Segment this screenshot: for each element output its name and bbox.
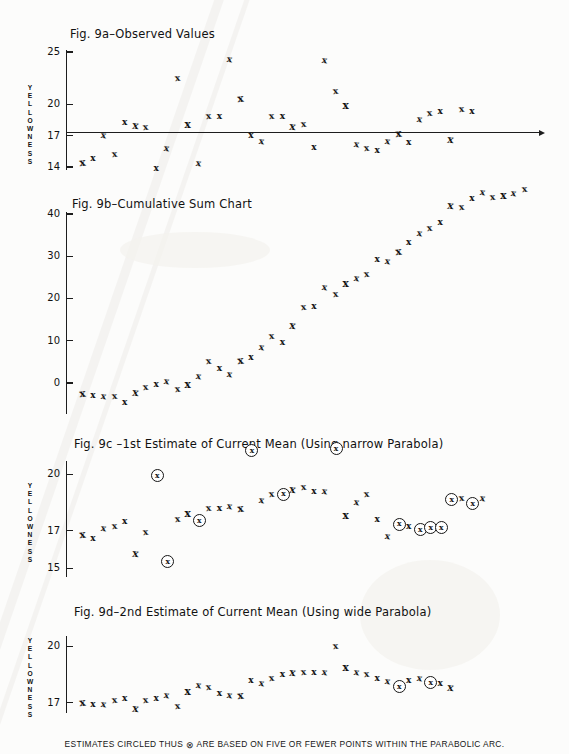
data-point: x (173, 385, 181, 395)
y-axis-tick-label: 30 (24, 250, 60, 261)
data-point: x (299, 119, 307, 129)
y-axis-tick (66, 568, 73, 569)
data-point: x (426, 223, 434, 233)
data-point: x (90, 154, 97, 163)
data-point: x (163, 690, 171, 700)
data-point: x (299, 668, 307, 678)
data-point: x (342, 101, 349, 110)
data-point: x (78, 158, 86, 168)
data-point: x (121, 517, 128, 526)
data-point: x (520, 185, 528, 195)
data-point-circled: x (161, 555, 174, 568)
data-point: x (90, 391, 97, 400)
data-point: x (405, 138, 412, 147)
data-point: x (289, 320, 297, 330)
data-point: x (110, 150, 118, 160)
y-axis-tick-label: 15 (24, 562, 60, 573)
data-point: x (331, 642, 339, 652)
data-point: x (289, 484, 297, 494)
data-point: x (374, 146, 381, 155)
data-point: x (352, 273, 360, 283)
data-point: x (184, 380, 191, 389)
y-axis-tick-label: 14 (24, 161, 60, 172)
data-point: x (447, 201, 455, 211)
data-point: x (236, 355, 244, 365)
y-axis-label-char: L (25, 109, 35, 117)
data-point: x (394, 247, 402, 257)
data-point: x (405, 238, 412, 247)
data-point: x (500, 191, 507, 200)
data-point: x (257, 137, 265, 147)
data-point: x (489, 193, 497, 203)
data-point-circled: x (193, 514, 206, 527)
data-point: x (374, 674, 381, 683)
chart-title-9d: Fig. 9d–2nd Estimate of Current Mean (Us… (74, 605, 431, 619)
chart-title-9c: Fig. 9c –1st Estimate of Current Mean (U… (74, 437, 443, 451)
data-point-circled: x (330, 442, 343, 455)
data-point: x (257, 679, 265, 689)
y-axis-tick (66, 474, 73, 475)
y-axis-line-9b (66, 212, 67, 414)
y-axis-label-char: L (25, 662, 35, 670)
data-point: x (321, 486, 329, 496)
data-point: x (153, 380, 160, 389)
data-point: x (163, 143, 171, 153)
data-point: x (216, 364, 223, 373)
y-axis-tick (66, 646, 73, 647)
data-point: x (384, 137, 392, 147)
data-point: x (194, 372, 202, 382)
data-point: x (384, 531, 392, 541)
y-axis-tick-label: 10 (24, 335, 60, 346)
data-point: x (405, 676, 412, 685)
data-point: x (374, 515, 381, 524)
footer-note-before: ESTIMATES CIRCLED THUS (65, 739, 184, 749)
data-point: x (78, 530, 86, 540)
data-point: x (447, 135, 455, 145)
data-point: x (142, 382, 150, 392)
data-point-circled: x (151, 469, 164, 482)
y-axis-tick-label: 25 (24, 46, 60, 57)
data-point: x (384, 257, 392, 267)
baseline-axis-9a (66, 132, 540, 133)
data-point: x (121, 398, 128, 407)
data-point: x (415, 673, 423, 683)
data-point: x (279, 112, 286, 121)
data-point: x (184, 120, 191, 129)
data-point: x (142, 528, 150, 538)
data-point: x (194, 159, 202, 169)
y-axis-label-char: L (25, 653, 35, 661)
data-point: x (468, 194, 475, 203)
data-point: x (331, 289, 339, 299)
y-axis-tick (66, 340, 73, 341)
data-point: x (173, 514, 181, 524)
data-point: x (279, 670, 286, 679)
y-axis-tick (66, 256, 73, 257)
data-point-circled: x (435, 521, 448, 534)
data-point: x (173, 701, 181, 711)
data-point: x (321, 668, 329, 678)
data-point: x (321, 283, 329, 293)
data-point: x (247, 131, 254, 140)
data-point: x (299, 302, 307, 312)
y-axis-label-char: Y (25, 84, 35, 92)
data-point: x (78, 389, 86, 399)
y-axis-label-char: L (25, 498, 35, 506)
y-axis-label-char: L (25, 507, 35, 515)
data-point: x (268, 112, 276, 122)
data-point: x (510, 189, 518, 199)
axis-arrow-9a (539, 130, 545, 136)
data-point: x (100, 131, 108, 141)
data-point: x (311, 668, 318, 677)
data-point-circled: x (424, 676, 437, 689)
y-axis-label-char: O (25, 117, 35, 125)
data-point: x (163, 377, 171, 387)
y-axis-line-9c (66, 461, 67, 577)
data-point: x (342, 663, 349, 672)
y-axis-tick (66, 104, 73, 105)
data-point: x (121, 118, 128, 127)
data-point: x (374, 255, 381, 264)
data-point: x (299, 483, 307, 493)
data-point: x (363, 490, 371, 500)
data-point-circled: x (466, 497, 479, 510)
data-point: x (478, 188, 486, 198)
